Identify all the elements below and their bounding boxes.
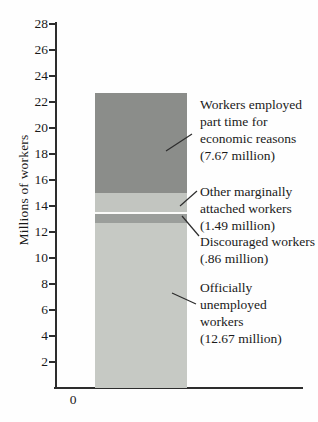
annotation-part-time-workers: Workers employed part time for economic … <box>200 96 318 164</box>
stacked-bar <box>95 93 187 388</box>
y-tick <box>49 231 55 233</box>
y-tick <box>49 309 55 311</box>
annotation-discouraged-workers: Discouraged workers (.86 million) <box>200 233 318 267</box>
y-tick <box>49 127 55 129</box>
y-tick-label: 6 <box>14 302 48 318</box>
origin-label: 0 <box>66 392 80 408</box>
chart-canvas: Millions of workers 24681012141618202224… <box>0 0 318 422</box>
y-tick-label: 16 <box>14 172 48 188</box>
y-tick-label: 10 <box>14 250 48 266</box>
y-tick-label: 22 <box>14 94 48 110</box>
y-tick <box>49 361 55 363</box>
y-tick <box>49 283 55 285</box>
y-tick-label: 8 <box>14 276 48 292</box>
y-tick <box>49 75 55 77</box>
y-tick <box>49 205 55 207</box>
y-tick-label: 12 <box>14 224 48 240</box>
y-tick-label: 2 <box>14 354 48 370</box>
y-tick <box>49 101 55 103</box>
y-tick-label: 26 <box>14 42 48 58</box>
y-axis-line <box>55 22 57 389</box>
y-tick <box>49 23 55 25</box>
y-tick <box>49 153 55 155</box>
annotation-other-marginally-attached-workers: Other marginally attached workers (1.49 … <box>200 183 318 234</box>
y-tick <box>49 335 55 337</box>
y-tick <box>49 179 55 181</box>
y-tick-label: 20 <box>14 120 48 136</box>
y-tick-label: 28 <box>14 16 48 32</box>
y-tick-label: 4 <box>14 328 48 344</box>
y-tick-label: 14 <box>14 198 48 214</box>
bar-segment-discouraged <box>95 212 187 223</box>
y-tick-label: 18 <box>14 146 48 162</box>
bar-segment-other-marginally-attached <box>95 193 187 212</box>
y-tick-label: 24 <box>14 68 48 84</box>
y-tick <box>49 49 55 51</box>
bar-segment-officially-unemployed <box>95 223 187 388</box>
y-tick <box>49 257 55 259</box>
annotation-officially-unemployed-workers: Officially unemployed workers (12.67 mil… <box>200 279 318 347</box>
bar-segment-part-time-economic <box>95 93 187 193</box>
